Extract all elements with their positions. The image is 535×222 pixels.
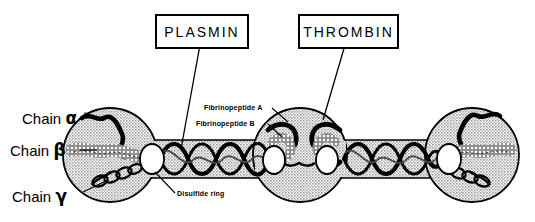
fibrinopeptide-b-label: Fibrinopeptide B bbox=[196, 120, 255, 127]
thrombin-leader bbox=[323, 45, 345, 120]
fibrinopeptide-a-label: Fibrinopeptide A bbox=[204, 104, 263, 111]
disulfide-ring-1 bbox=[140, 144, 164, 174]
disulfide-ring-3 bbox=[316, 146, 338, 174]
figure-canvas: PLASMIN THROMBIN Chain α Chain β Chain γ… bbox=[0, 0, 535, 222]
chain-alpha-text: Chain bbox=[22, 110, 61, 127]
thrombin-callout-box[interactable]: THROMBIN bbox=[298, 14, 399, 49]
disulfide-ring-label: Disulfide ring bbox=[177, 190, 225, 197]
chain-gamma-label: Chain γ bbox=[12, 186, 67, 206]
disulfide-ring-4 bbox=[437, 144, 461, 174]
chain-beta-text: Chain bbox=[10, 142, 49, 159]
chain-alpha-symbol: α bbox=[65, 108, 77, 128]
chain-beta-label: Chain β bbox=[10, 140, 66, 160]
plasmin-leader bbox=[181, 45, 200, 149]
chain-beta-symbol: β bbox=[53, 140, 65, 160]
plasmin-label: PLASMIN bbox=[164, 24, 239, 40]
chain-gamma-symbol: γ bbox=[55, 186, 67, 206]
chain-alpha-label: Chain α bbox=[22, 108, 77, 128]
thrombin-label: THROMBIN bbox=[303, 24, 394, 40]
disulfide-ring-2 bbox=[263, 146, 285, 174]
plasmin-callout-box[interactable]: PLASMIN bbox=[155, 14, 249, 49]
chain-gamma-text: Chain bbox=[12, 188, 51, 205]
fibrinogen-diagram bbox=[0, 0, 535, 222]
